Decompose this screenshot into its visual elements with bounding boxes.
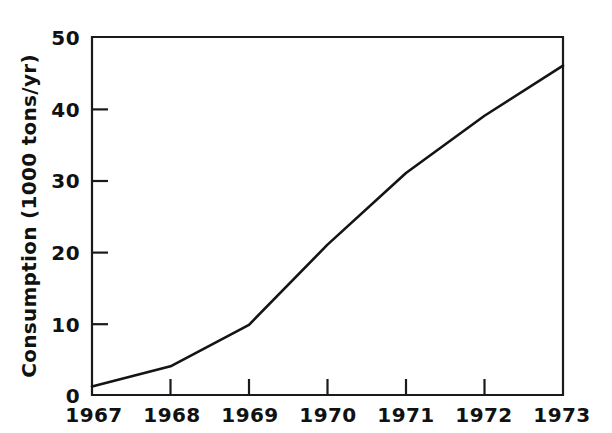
consumption-series-line xyxy=(92,66,563,387)
x-tick-label-1970: 1970 xyxy=(299,403,356,427)
x-tick-label-1973: 1973 xyxy=(533,403,590,427)
y-tick-label-30: 30 xyxy=(51,169,80,193)
x-tick-label-1971: 1971 xyxy=(377,403,434,427)
x-tick-label-1969: 1969 xyxy=(221,403,278,427)
y-tick-label-20: 20 xyxy=(51,241,80,265)
x-tick-label-1972: 1972 xyxy=(455,403,512,427)
x-axis-ticks xyxy=(171,379,485,395)
x-tick-label-1967: 1967 xyxy=(65,403,122,427)
x-tick-label-1968: 1968 xyxy=(143,403,200,427)
y-axis-title: Consumption (1000 tons/yr) xyxy=(17,54,41,378)
y-tick-label-40: 40 xyxy=(51,98,80,122)
plot-frame xyxy=(92,37,563,395)
y-tick-label-50: 50 xyxy=(51,26,80,50)
line-chart: 50 40 30 20 10 0 1967 1968 1969 1970 197… xyxy=(0,0,612,433)
y-tick-label-10: 10 xyxy=(51,313,80,337)
chart-figure: 50 40 30 20 10 0 1967 1968 1969 1970 197… xyxy=(0,0,612,433)
y-axis-ticks xyxy=(92,109,108,324)
